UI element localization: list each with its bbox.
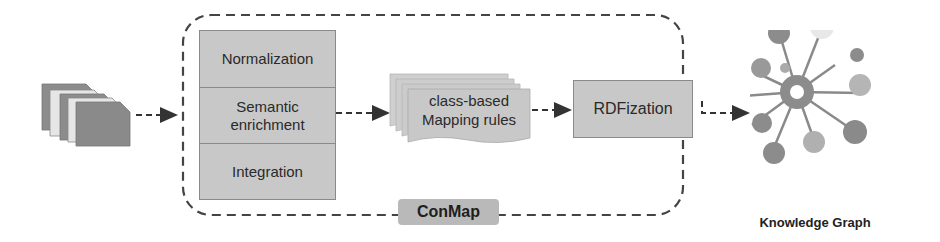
knowledge-graph-label: Knowledge Graph (750, 215, 880, 230)
step-normalization: Normalization (200, 31, 335, 88)
processing-stack: Normalization Semantic enrichment Integr… (199, 30, 336, 200)
conmap-label-text: ConMap (417, 203, 480, 221)
mapping-rules-line2: Mapping rules (408, 110, 530, 129)
step-semantic-enrichment: Semantic enrichment (200, 88, 335, 144)
step-label: Integration (232, 163, 303, 181)
step-label: Semantic enrichment (218, 98, 317, 134)
knowledge-graph-icon (750, 30, 910, 180)
mapping-rules-line1: class-based (408, 91, 530, 110)
arrow-rdfization-to-kg (702, 101, 748, 113)
step-label: Normalization (222, 50, 314, 68)
rdfization-box: RDFization (573, 80, 693, 138)
rdfization-label: RDFization (593, 100, 672, 118)
conmap-label: ConMap (398, 199, 499, 225)
mapping-rules-label: class-based Mapping rules (408, 91, 530, 129)
step-integration: Integration (200, 144, 335, 200)
document-stack-icon (40, 82, 140, 147)
